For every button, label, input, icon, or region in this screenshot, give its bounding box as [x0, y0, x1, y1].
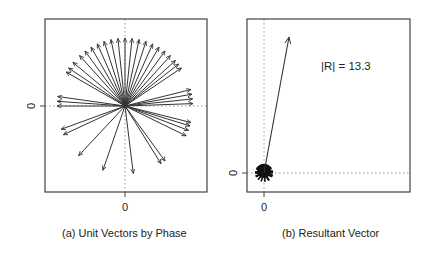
unit-vector-arrow [103, 106, 125, 170]
unit-vector-arrow [61, 106, 125, 129]
unit-vector-arrow [79, 106, 125, 156]
plot-frame [247, 19, 410, 192]
resultant-vector-arrow [264, 37, 289, 173]
resultant-magnitude-label: |R| = 13.3 [321, 60, 371, 72]
panel-unit-vectors: 0 0 (a) Unit Vectors by Phase [0, 0, 215, 255]
unit-vector-arrow [80, 56, 126, 107]
unit-vector-arrow [63, 106, 125, 135]
unit-vector-arrow [125, 106, 189, 130]
unit-vector-arrow [125, 106, 190, 126]
caption-panel-b: (b) Resultant Vector [282, 227, 379, 239]
unit-vectors-plot: 0 0 [0, 0, 215, 220]
resultant-vector-plot: |R| = 13.3 0 0 [215, 0, 431, 220]
x-tick-label: 0 [122, 201, 128, 213]
panel-resultant-vector: |R| = 13.3 0 0 (b) Resultant Vector [215, 0, 431, 255]
unit-vector-arrow [57, 101, 125, 106]
unit-vector-fan [57, 38, 193, 174]
unit-vector-arrow [66, 72, 125, 106]
y-tick-label: 0 [25, 103, 37, 109]
x-tick-label: 0 [261, 201, 267, 213]
unit-vector-arrow [125, 56, 171, 107]
y-tick-label: 0 [227, 170, 239, 176]
caption-panel-a: (a) Unit Vectors by Phase [62, 227, 187, 239]
